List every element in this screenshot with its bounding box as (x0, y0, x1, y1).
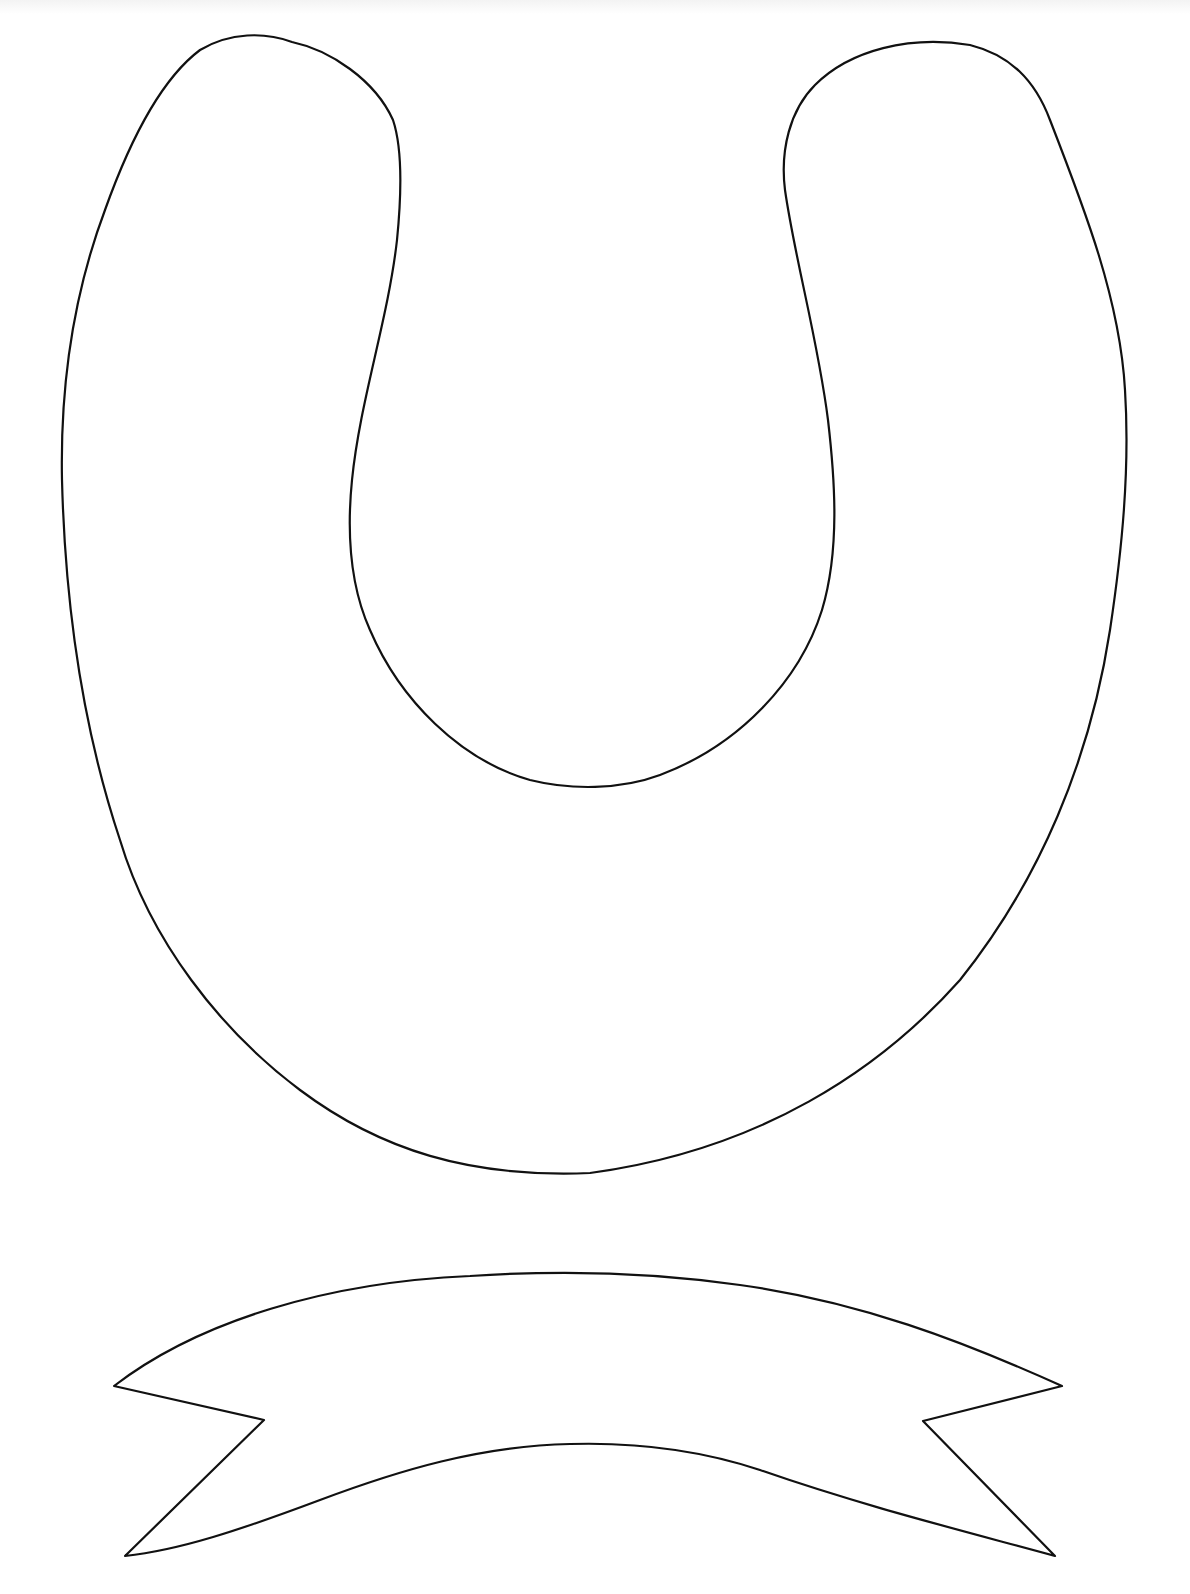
template-page: Printable outline template: horseshoe wi… (0, 0, 1190, 1594)
banner-ribbon-outline (114, 1273, 1062, 1556)
template-artwork (0, 0, 1190, 1594)
horseshoe-outline (62, 35, 1127, 1173)
